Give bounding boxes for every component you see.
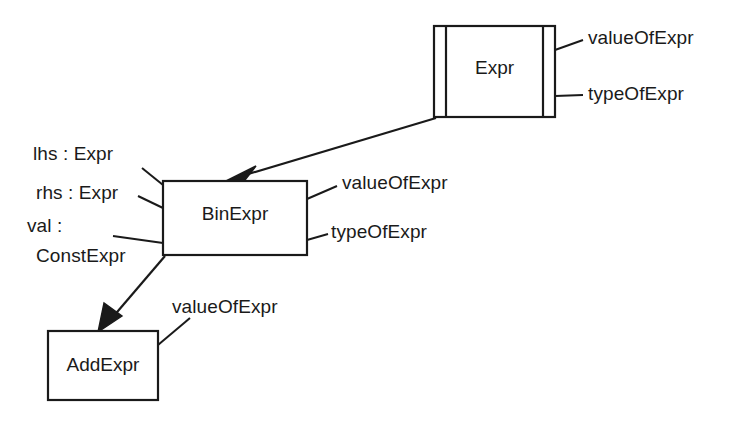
expr-leader-value-of: [555, 40, 583, 50]
binexpr-leader-type-of: [307, 234, 328, 240]
attribute-label-binexpr-rhs: rhs : Expr: [36, 182, 118, 203]
inheritance-arrow-binexpr-addexpr: [98, 256, 165, 332]
binexpr-leader-value-of: [307, 186, 337, 199]
addexpr-leader-value-of: [158, 318, 190, 345]
member-label-expr-value-of: valueOfExpr: [588, 27, 694, 48]
attribute-label-binexpr-val-type: ConstExpr: [36, 245, 126, 266]
member-label-addexpr-value-of: valueOfExpr: [172, 296, 278, 317]
binexpr-leader-val: [113, 236, 163, 243]
arrowhead-binexpr-addexpr: [98, 303, 122, 332]
arrow-shaft-expr-binexpr: [245, 118, 436, 175]
class-name-expr: Expr: [434, 57, 555, 79]
uml-class-diagram: Expr valueOfExpr typeOfExpr lhs : Expr r…: [0, 0, 753, 427]
member-label-binexpr-value-of: valueOfExpr: [342, 172, 448, 193]
class-name-addexpr: AddExpr: [48, 354, 158, 376]
binexpr-leader-lhs: [142, 168, 163, 185]
attribute-label-binexpr-val: val :: [27, 215, 62, 236]
attribute-label-binexpr-lhs: lhs : Expr: [33, 143, 113, 164]
member-label-binexpr-type-of: typeOfExpr: [331, 221, 427, 242]
class-name-binexpr: BinExpr: [163, 203, 307, 225]
binexpr-leader-rhs: [138, 196, 163, 208]
expr-leader-type-of: [555, 95, 583, 96]
member-label-expr-type-of: typeOfExpr: [588, 83, 684, 104]
